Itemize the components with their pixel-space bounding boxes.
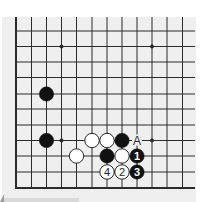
move-number: 3 [134,166,140,178]
white-stone [115,149,129,163]
black-stone-1: 1 [130,149,144,163]
go-board-grid: 1234 A [0,0,201,202]
star-point [60,45,64,49]
white-stone [100,133,114,147]
point-label-a: A [133,134,141,148]
annotations: A [132,134,142,148]
black-stone [39,87,53,101]
star-point [150,45,154,49]
move-number: 4 [104,166,110,178]
black-stone [39,133,53,147]
white-stone [69,149,83,163]
black-stone [100,149,114,163]
black-stone [115,133,129,147]
white-stone [85,133,99,147]
star-point [150,139,154,143]
star-point [60,139,64,143]
move-number: 1 [134,150,140,162]
page-edge [4,198,79,202]
black-stone-3: 3 [130,165,144,179]
white-stone-2: 2 [115,165,129,179]
white-stone-4: 4 [100,165,114,179]
move-number: 2 [119,166,125,178]
